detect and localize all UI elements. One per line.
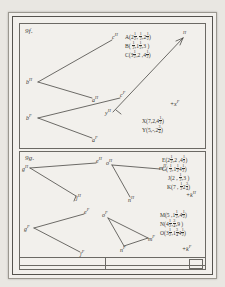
numeric-value: 12 [132,43,135,49]
coord-line-O: O(312,134412) [160,228,187,237]
numeric-value: 134 [173,230,179,236]
coords-mno: M(5 ,112,412) N(412,34,9 ) O(312,134412) [160,210,187,237]
footer-cell-right [106,258,205,269]
numeric-value: 112 [172,212,178,218]
numeric-value: 2 [174,157,177,163]
vertex-label-e-F: eF [84,207,89,215]
coord-line-G: G( 12,112412) [162,164,190,173]
axis-note-plus-k-H: +kH [186,190,196,198]
problem-panel-9f: 9f. cH [19,23,206,149]
numeric-value: 412 [180,157,186,163]
numeric-value: 112 [136,43,142,49]
coord-line-Y: Y(5,-,234) [142,125,164,134]
vertex-label-j-H: jH [76,193,81,201]
numeric-value: 412 [179,212,185,218]
numeric-value: 2 [172,175,175,181]
vertex-label-o-F: oF [102,210,108,218]
coords-abc: A(212, 12,212) B( 12,112,3 ) C(312,2 ,41… [125,32,151,59]
numeric-value: 212 [167,157,173,163]
numeric-value: 12 [179,175,182,181]
coord-line-A: A(212, 12,212) [125,32,151,41]
vertex-label-e-H: eH [96,156,102,164]
numeric-value: 2 [152,118,155,124]
vertex-label-y-H: yH [105,108,111,116]
vertex-label-g-H: gH [22,164,28,172]
footer-stamp-box [189,259,203,269]
numeric-value: 12 [169,166,172,172]
numeric-value: 412 [179,230,185,236]
numeric-value: 412 [166,221,172,227]
footer-cell-left [20,258,106,269]
vertex-label-m-F: mF [148,234,155,242]
page-border: 9f. cH [12,16,213,275]
numeric-value: 9 [177,221,180,227]
numeric-value: 7 [148,118,151,124]
problem-panel-9g: 9g. [19,151,206,266]
vertex-label-n-F: nF [120,245,126,253]
vertex-label-n-H: nH [128,195,134,203]
paper-sheet: 9f. cH [8,12,217,279]
numeric-value: 412 [179,166,185,172]
coords-xy: X(7,2,412) Y(5,-,234) [142,116,164,134]
coords-egjk: E(212,2 ,412) G( 12,112412) J(2 , 12,3 )… [162,155,190,191]
numeric-value: 7 [173,184,176,190]
vertex-label-g-F: gF [24,224,30,232]
footer-table [19,257,206,270]
numeric-value: 234 [155,127,161,133]
numeric-value: 2 [138,52,141,58]
coord-line-C: C(312,2 ,412) [125,50,151,59]
numeric-value: 212 [131,34,137,40]
arrow-head-label-H: H [183,30,186,38]
numeric-value: 3 [183,175,186,181]
vertex-label-c-H: cH [112,32,118,40]
numeric-value: 312 [166,230,172,236]
vertex-label-j-F: jF [80,249,84,257]
vertex-label-b-H: bH [26,77,32,85]
numeric-value: 212 [144,34,150,40]
numeric-value: 412 [143,52,149,58]
diagram-9f-strokes [20,24,215,148]
vertex-label-o-H: oH [106,158,112,166]
numeric-value: 412 [156,118,162,124]
numeric-value: 312 [131,52,137,58]
numeric-value: 34 [173,221,176,227]
vertex-label-a-F: aF [92,135,98,143]
numeric-value: 5 [167,212,170,218]
numeric-value: 12 [139,34,142,40]
numeric-value: - [152,127,154,133]
scanned-page: 9f. cH [0,0,225,287]
vertex-label-a-H: aH [92,95,98,103]
numeric-value: 5 [148,127,151,133]
vertex-label-c-F: cF [120,90,125,98]
axis-note-plus-k-F: +kF [182,244,191,252]
numeric-value: 3 [143,43,146,49]
axis-note-plus-x-F: +xF [170,99,179,107]
vertex-label-b-F: bF [26,113,32,121]
